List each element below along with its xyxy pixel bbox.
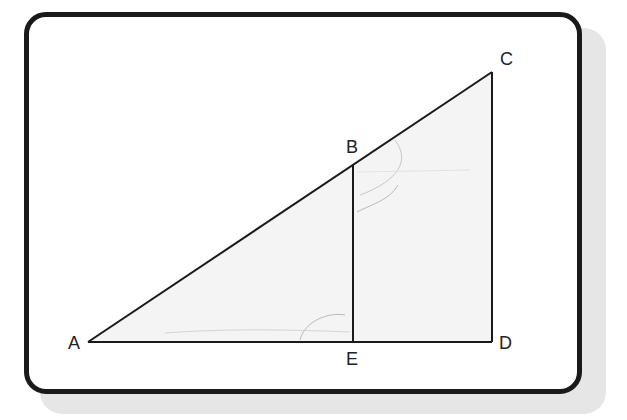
label-a: A [68,334,80,352]
triangle-diagram [0,0,627,420]
label-c: C [500,50,513,68]
label-d: D [499,334,512,352]
label-b: B [346,138,358,156]
label-e: E [346,350,358,368]
